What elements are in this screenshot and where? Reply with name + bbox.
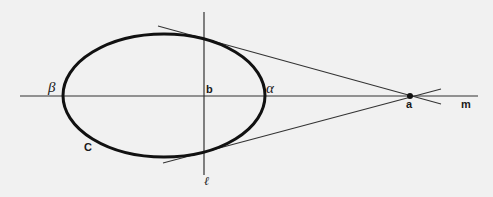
diagram-canvas: β b α a m C ℓ (0, 0, 493, 197)
label-alpha: α (266, 81, 274, 96)
label-ell: ℓ (204, 175, 209, 187)
label-b: b (206, 84, 213, 95)
label-c: C (84, 142, 92, 153)
label-a: a (406, 99, 412, 110)
label-m: m (461, 99, 471, 110)
label-beta: β (48, 80, 55, 95)
diagram-svg (0, 0, 493, 197)
